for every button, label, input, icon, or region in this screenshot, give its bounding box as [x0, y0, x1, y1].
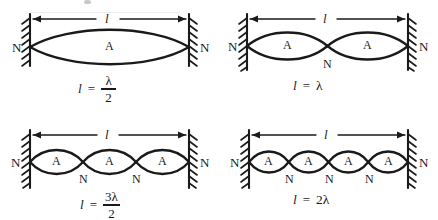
antinode-label-1: A	[105, 40, 114, 52]
antinode-label-3: A	[158, 155, 167, 167]
antinode-label-1: A	[264, 155, 273, 167]
right-wall-icon	[408, 14, 416, 71]
equation-fraction: 3λ 2	[103, 190, 120, 220]
equation-operator: =	[88, 81, 95, 97]
antinode-label-2: A	[105, 155, 114, 167]
equation-operator: =	[90, 197, 97, 213]
equation-harmonic-1: l = λ 2	[78, 74, 116, 104]
fraction-numerator: 3λ	[103, 190, 120, 203]
antinode-label-2: A	[363, 39, 372, 51]
fraction-numerator: λ	[103, 74, 113, 87]
node-label-left: N	[228, 40, 237, 53]
equation-lhs: l	[293, 192, 297, 208]
equation-harmonic-2: l = λ	[293, 78, 323, 94]
equation-rhs: 2λ	[316, 192, 329, 208]
equation-lhs: l	[80, 197, 84, 213]
length-dimension-arrow	[250, 16, 405, 23]
length-dimension-arrow	[252, 132, 405, 139]
node-label-right: N	[419, 156, 428, 169]
equation-harmonic-4: l = 2λ	[293, 192, 329, 208]
length-dimension-arrow	[33, 132, 186, 139]
equation-harmonic-3: l = 3λ 2	[80, 190, 120, 220]
antinode-label-1: A	[52, 155, 61, 167]
panel-harmonic-4: N N A A A A N N N l l = 2λ	[219, 110, 438, 220]
panel-harmonic-2: N N A A N l l = λ	[219, 0, 438, 110]
antinode-label-3: A	[344, 155, 353, 167]
equation-rhs: λ	[316, 78, 323, 94]
equation-fraction: λ 2	[101, 74, 116, 104]
node-label-right: N	[419, 40, 428, 53]
length-dimension-label: l	[324, 127, 328, 143]
right-wall-icon	[189, 130, 197, 188]
interior-node-label-3: N	[365, 173, 374, 185]
equation-lhs: l	[293, 78, 297, 94]
right-wall-icon	[408, 130, 416, 188]
fraction-denominator: 2	[103, 91, 114, 104]
node-label-right: N	[200, 41, 209, 54]
panel-harmonic-1: N N A l l = λ 2	[0, 0, 219, 110]
interior-node-label-1: N	[323, 58, 332, 70]
length-dimension-arrow	[33, 16, 186, 23]
left-wall-icon	[22, 130, 30, 188]
equation-lhs: l	[78, 81, 82, 97]
standing-wave-figure: N N A l l = λ 2	[0, 0, 438, 220]
node-label-left: N	[230, 156, 239, 169]
left-wall-icon	[22, 14, 30, 66]
node-label-right: N	[200, 156, 209, 169]
harmonic-2-graphic	[219, 0, 438, 110]
length-dimension-label: l	[323, 11, 327, 27]
length-dimension-label: l	[105, 11, 109, 27]
length-dimension-label: l	[105, 127, 109, 143]
antinode-label-4: A	[384, 155, 393, 167]
interior-node-label-1: N	[285, 173, 294, 185]
left-wall-icon	[239, 14, 247, 71]
panel-harmonic-3: N N A A A N N l l = 3λ 2	[0, 110, 219, 220]
antinode-label-2: A	[304, 155, 313, 167]
fraction-denominator: 2	[106, 207, 117, 220]
node-label-left: N	[11, 156, 20, 169]
interior-node-label-1: N	[79, 173, 88, 185]
left-wall-icon	[241, 130, 249, 188]
equation-operator: =	[303, 192, 310, 208]
interior-node-label-2: N	[132, 173, 141, 185]
interior-node-label-2: N	[325, 173, 334, 185]
equation-operator: =	[303, 78, 310, 94]
wave-envelope	[247, 33, 408, 60]
right-wall-icon	[189, 14, 197, 66]
node-label-left: N	[12, 41, 21, 54]
antinode-label-1: A	[283, 39, 292, 51]
